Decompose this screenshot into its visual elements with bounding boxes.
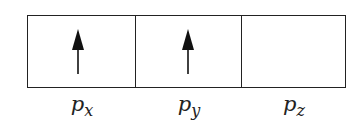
up-arrow-icon — [182, 29, 194, 74]
label-px: px — [29, 92, 135, 120]
label-py: py — [136, 92, 242, 120]
label-pz: pz — [241, 92, 347, 120]
up-arrow-icon — [72, 29, 84, 74]
